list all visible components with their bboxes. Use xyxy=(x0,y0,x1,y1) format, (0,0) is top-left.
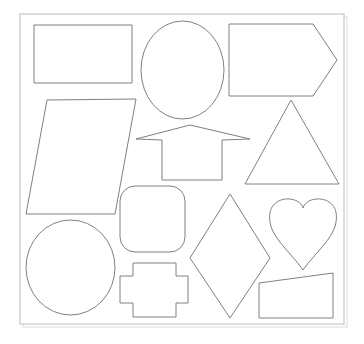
circle-shape[interactable] xyxy=(26,220,115,315)
pentagon-shape[interactable] xyxy=(229,24,337,96)
rounded-square-shape[interactable] xyxy=(120,186,185,252)
rectangle-shape[interactable] xyxy=(34,25,132,83)
shapes-canvas xyxy=(0,0,364,344)
shapes-drawing xyxy=(0,0,364,344)
ellipse-shape[interactable] xyxy=(141,21,224,119)
